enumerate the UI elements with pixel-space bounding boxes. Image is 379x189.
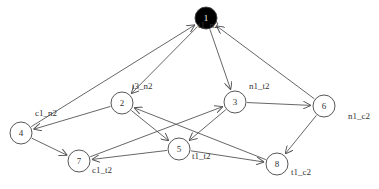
node-number: 5 — [177, 144, 182, 154]
node-5-label: t1_t2 — [192, 151, 211, 161]
node-number: 3 — [233, 97, 238, 107]
edge-6-to-8 — [285, 115, 316, 154]
node-8: 8 — [266, 153, 288, 175]
edge-3-to-5 — [189, 110, 226, 141]
node-5: 5 — [168, 138, 190, 160]
edge-3-to-6 — [247, 103, 311, 106]
node-1-label: t1_n2 — [198, 20, 219, 30]
node-8-label: t1_c2 — [291, 167, 311, 177]
node-4: 4 — [10, 122, 32, 144]
node-number: 2 — [120, 98, 125, 108]
node-2-label: t3_n2 — [132, 81, 153, 91]
edge-2-to-5 — [131, 111, 169, 141]
node-number: 7 — [77, 156, 82, 166]
node-number: 8 — [275, 159, 280, 169]
node-3-label: n1_t2 — [249, 81, 270, 91]
node-2: 2 — [111, 92, 133, 114]
node-7: 7 — [68, 150, 90, 172]
node-4-label: c1_n2 — [35, 108, 57, 118]
node-7-label: c1_t2 — [92, 165, 112, 175]
node-3: 3 — [224, 91, 246, 113]
edge-7-to-3 — [90, 107, 223, 157]
nodes: 12345678 — [10, 7, 335, 175]
node-number: 4 — [19, 128, 24, 138]
node-6-label: n1_c2 — [348, 111, 370, 121]
state-graph: 12345678 — [0, 0, 379, 189]
edge-4-to-7 — [32, 138, 67, 155]
node-number: 6 — [322, 101, 327, 111]
node-6: 6 — [313, 95, 335, 117]
edge-1-to-3 — [210, 29, 231, 89]
